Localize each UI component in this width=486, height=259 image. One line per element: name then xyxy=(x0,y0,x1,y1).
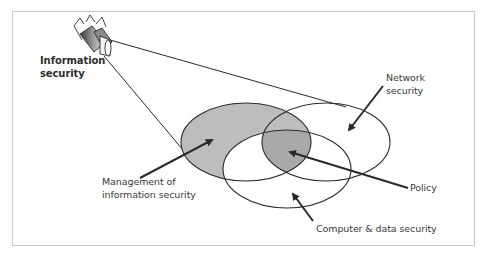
diagram-canvas: Information security Network security Ma… xyxy=(0,0,486,259)
computer-data-security-label: Computer & data security xyxy=(316,222,437,235)
management-label: Management of information security xyxy=(102,175,196,201)
network-arrow xyxy=(349,86,383,130)
network-security-line-1: Network xyxy=(386,71,425,84)
policy-arrow xyxy=(290,152,408,188)
information-security-line-1: Information xyxy=(40,54,105,67)
network-security-label: Network security xyxy=(386,71,425,97)
information-security-line-2: security xyxy=(40,67,105,80)
policy-label: Policy xyxy=(410,181,437,194)
venn-diagram xyxy=(0,0,486,259)
computer-data-security-text: Computer & data security xyxy=(316,222,437,235)
policy-text: Policy xyxy=(410,181,437,194)
information-security-label: Information security xyxy=(40,54,105,80)
security-camera-icon xyxy=(74,15,112,56)
network-security-line-2: security xyxy=(386,84,425,97)
management-line-1: Management of xyxy=(102,175,196,188)
management-line-2: information security xyxy=(102,188,196,201)
